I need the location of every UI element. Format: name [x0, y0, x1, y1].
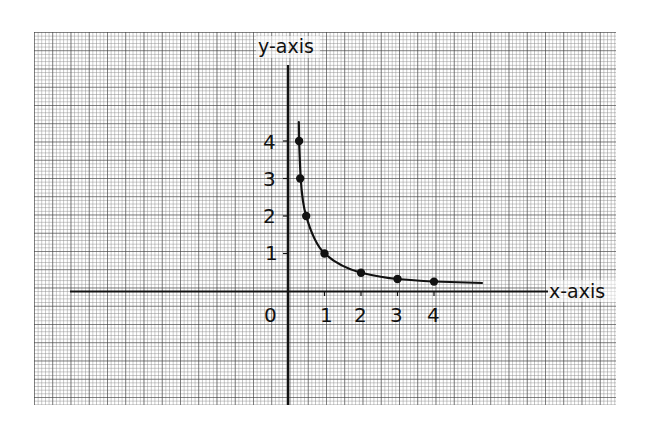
point-1-1 — [320, 249, 328, 257]
x-axis-label: x-axis — [549, 280, 605, 302]
origin-label: 0 — [264, 303, 277, 327]
point-0.33-3 — [296, 174, 304, 182]
point-0.25-4 — [295, 137, 303, 145]
point-0.5-2 — [302, 212, 310, 220]
point-3-0.33 — [393, 275, 401, 283]
x-tick-label-3: 3 — [390, 303, 403, 327]
x-tick-label-2: 2 — [354, 303, 367, 327]
grid — [34, 32, 616, 405]
x-tick-label-1: 1 — [320, 303, 333, 327]
y-tick-label-1: 1 — [265, 241, 278, 265]
y-tick-label-4: 4 — [263, 130, 276, 154]
y-axis-label: y-axis — [258, 35, 314, 57]
x-tick-label-4: 4 — [427, 303, 440, 327]
y-tick-label-2: 2 — [263, 204, 276, 228]
y-tick-label-3: 3 — [263, 167, 276, 191]
point-2-0.5 — [357, 269, 365, 277]
point-4-0.25 — [430, 277, 438, 285]
graph-paper-chart: y-axis x-axis 0 1 2 3 4 1 2 3 4 — [0, 0, 649, 431]
